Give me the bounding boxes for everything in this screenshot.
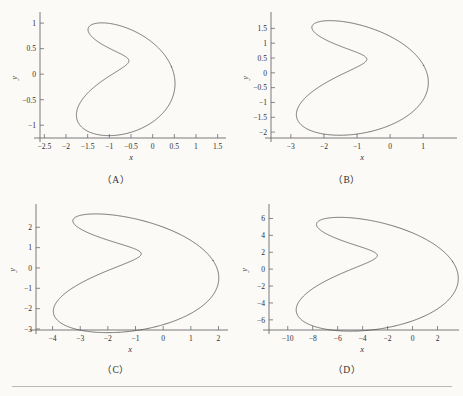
svg-text:−2: −2 bbox=[384, 334, 392, 343]
svg-text:1: 1 bbox=[28, 243, 32, 252]
panel-d: −10−8−6−4−202−6−4−20246xy bbox=[231, 198, 463, 364]
svg-text:1.5: 1.5 bbox=[213, 142, 223, 151]
svg-text:−3: −3 bbox=[287, 142, 295, 151]
svg-text:0.5: 0.5 bbox=[258, 54, 268, 63]
svg-text:2: 2 bbox=[261, 248, 265, 257]
svg-text:−0.5: −0.5 bbox=[22, 96, 36, 105]
svg-text:x: x bbox=[359, 345, 364, 354]
svg-text:−1.5: −1.5 bbox=[81, 142, 95, 151]
panel-b-plot: −3−2−101−2−1.5−1−0.500.511.5xy bbox=[231, 4, 463, 174]
panel-d-plot: −10−8−6−4−202−6−4−20246xy bbox=[231, 198, 463, 364]
panel-c-caption: （C） bbox=[0, 362, 232, 376]
svg-text:2: 2 bbox=[436, 334, 440, 343]
svg-text:0.5: 0.5 bbox=[170, 142, 180, 151]
svg-text:2: 2 bbox=[217, 334, 221, 343]
svg-text:−2: −2 bbox=[104, 334, 112, 343]
panel-a-plot: −2.5−2−1.5−1−0.500.511.5−1−0.500.51xy bbox=[0, 4, 232, 174]
svg-text:−1.5: −1.5 bbox=[253, 113, 267, 122]
svg-text:−1: −1 bbox=[131, 334, 139, 343]
svg-text:−2: −2 bbox=[62, 142, 70, 151]
svg-text:−1: −1 bbox=[24, 284, 32, 293]
svg-text:y: y bbox=[241, 76, 250, 81]
svg-text:−4: −4 bbox=[359, 334, 367, 343]
panel-b-caption: （B） bbox=[231, 172, 463, 186]
svg-text:6: 6 bbox=[261, 214, 265, 223]
svg-text:1: 1 bbox=[189, 334, 193, 343]
svg-text:−0.5: −0.5 bbox=[253, 83, 267, 92]
svg-text:−2.5: −2.5 bbox=[37, 142, 51, 151]
svg-text:x: x bbox=[359, 153, 364, 162]
svg-text:0: 0 bbox=[388, 142, 392, 151]
svg-text:−3: −3 bbox=[76, 334, 84, 343]
panel-b: −3−2−101−2−1.5−1−0.500.511.5xy bbox=[231, 4, 463, 174]
svg-text:y: y bbox=[10, 76, 19, 81]
svg-text:1.5: 1.5 bbox=[258, 24, 268, 33]
svg-text:0: 0 bbox=[261, 265, 265, 274]
svg-text:0: 0 bbox=[151, 142, 155, 151]
svg-text:1: 1 bbox=[194, 142, 198, 151]
panel-c: −4−3−2−1012−3−2−1012xy bbox=[0, 198, 232, 364]
svg-text:−1: −1 bbox=[259, 98, 267, 107]
svg-text:y: y bbox=[8, 268, 17, 273]
svg-text:−6: −6 bbox=[257, 316, 265, 325]
svg-text:0: 0 bbox=[28, 264, 32, 273]
svg-text:−2: −2 bbox=[24, 304, 32, 313]
svg-text:−3: −3 bbox=[24, 325, 32, 334]
svg-text:0: 0 bbox=[161, 334, 165, 343]
svg-text:−10: −10 bbox=[282, 334, 294, 343]
svg-text:−1: −1 bbox=[105, 142, 113, 151]
svg-text:0: 0 bbox=[32, 70, 36, 79]
svg-text:−6: −6 bbox=[334, 334, 342, 343]
svg-text:1: 1 bbox=[32, 19, 36, 28]
svg-text:−8: −8 bbox=[309, 334, 317, 343]
svg-text:4: 4 bbox=[261, 231, 265, 240]
svg-text:−0.5: −0.5 bbox=[124, 142, 138, 151]
figure-panel-grid: −2.5−2−1.5−1−0.500.511.5−1−0.500.51xy （A… bbox=[0, 0, 463, 396]
svg-text:2: 2 bbox=[28, 223, 32, 232]
panel-a: −2.5−2−1.5−1−0.500.511.5−1−0.500.51xy bbox=[0, 4, 232, 174]
svg-text:x: x bbox=[128, 153, 133, 162]
svg-text:−1: −1 bbox=[28, 121, 36, 130]
svg-text:y: y bbox=[240, 268, 249, 273]
svg-text:−2: −2 bbox=[320, 142, 328, 151]
svg-text:−2: −2 bbox=[257, 282, 265, 291]
svg-text:x: x bbox=[127, 345, 132, 354]
svg-text:−4: −4 bbox=[257, 299, 265, 308]
svg-text:0.5: 0.5 bbox=[27, 44, 37, 53]
panel-d-caption: （D） bbox=[231, 362, 463, 376]
panel-a-caption: （A） bbox=[0, 172, 232, 186]
svg-text:−4: −4 bbox=[49, 334, 57, 343]
svg-text:−1: −1 bbox=[353, 142, 361, 151]
panel-c-plot: −4−3−2−1012−3−2−1012xy bbox=[0, 198, 232, 364]
svg-text:1: 1 bbox=[263, 39, 267, 48]
svg-text:0: 0 bbox=[263, 69, 267, 78]
svg-text:−2: −2 bbox=[259, 128, 267, 137]
svg-text:0: 0 bbox=[411, 334, 415, 343]
bottom-divider bbox=[12, 386, 452, 387]
svg-text:1: 1 bbox=[421, 142, 425, 151]
